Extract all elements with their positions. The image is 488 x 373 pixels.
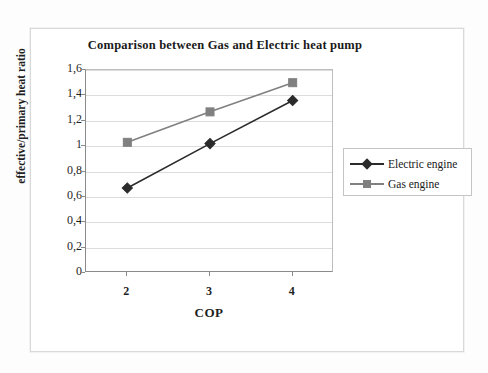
x-axis-tick-label: 4 <box>272 284 312 299</box>
data-point-square <box>289 79 297 87</box>
plot-area <box>85 69 333 272</box>
x-axis-tick-mark <box>126 272 127 276</box>
legend-sample <box>350 158 384 170</box>
series-layer <box>86 70 334 273</box>
y-axis-title: effective/primary heat ratio <box>15 31 27 201</box>
y-axis-tick-label: 1,2 <box>48 112 82 127</box>
x-axis-tick-label: 3 <box>189 284 229 299</box>
y-axis-tick-label: 0,4 <box>48 213 82 228</box>
chart-figure: Comparison between Gas and Electric heat… <box>0 0 488 373</box>
x-axis-tick-mark <box>292 272 293 276</box>
data-point-diamond <box>288 95 298 105</box>
legend-item[interactable]: Gas engine <box>350 175 439 193</box>
legend-item[interactable]: Electric engine <box>350 155 457 173</box>
y-axis-tick-label: 1 <box>48 137 82 152</box>
x-axis-title: COP <box>85 305 333 321</box>
x-axis-tick-mark <box>209 272 210 276</box>
data-point-square <box>206 108 214 116</box>
legend-square-icon <box>363 180 371 188</box>
y-axis-tick-labels: 1,61,41,210,80,60,40,20 <box>46 69 82 272</box>
y-axis-tick-label: 0,8 <box>48 163 82 178</box>
legend-label: Gas engine <box>384 178 439 190</box>
data-point-diamond <box>205 138 215 148</box>
data-point-diamond <box>122 183 132 193</box>
legend-diamond-icon <box>361 158 372 169</box>
y-axis-tick-label: 0 <box>48 264 82 279</box>
y-axis-tick-label: 0,2 <box>48 239 82 254</box>
legend-label: Electric engine <box>384 158 457 170</box>
data-point-square <box>123 138 131 146</box>
legend: Electric engineGas engine <box>343 148 472 196</box>
y-axis-tick-label: 0,6 <box>48 188 82 203</box>
legend-sample <box>350 178 384 190</box>
y-axis-tick-label: 1,4 <box>48 86 82 101</box>
x-axis-tick-label: 2 <box>106 284 146 299</box>
y-axis-tick-mark <box>81 272 85 273</box>
chart-title: Comparison between Gas and Electric heat… <box>60 38 390 53</box>
y-axis-tick-label: 1,6 <box>48 61 82 76</box>
